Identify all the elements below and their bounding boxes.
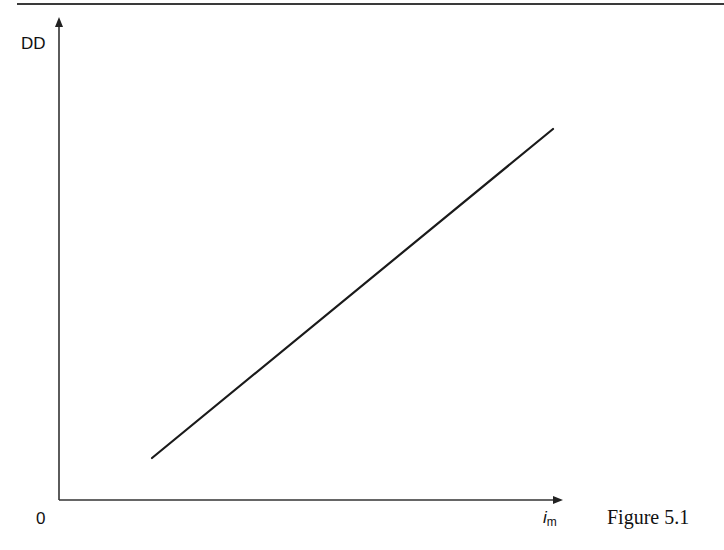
chart-plot-area bbox=[0, 0, 724, 550]
x-axis-label-subscript: m bbox=[547, 515, 557, 529]
x-axis-label: im bbox=[543, 508, 557, 529]
y-axis-label: DD bbox=[21, 34, 46, 54]
figure-caption: Figure 5.1 bbox=[607, 506, 689, 529]
dd-curve-line bbox=[152, 129, 553, 458]
origin-label: 0 bbox=[36, 509, 45, 529]
